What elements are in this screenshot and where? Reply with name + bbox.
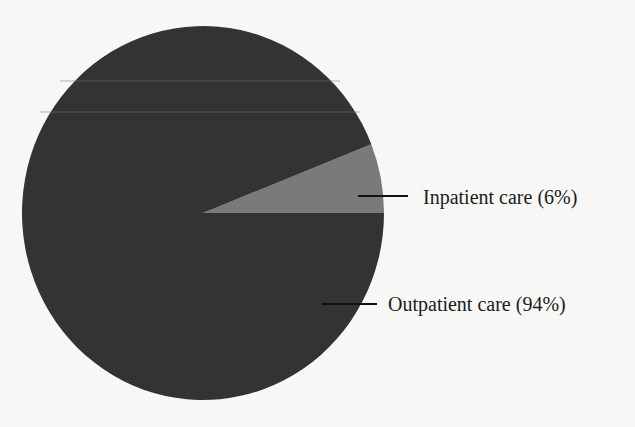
outpatient-label: Outpatient care (94%) — [388, 294, 566, 314]
pie-chart — [0, 0, 635, 427]
outpatient-leader-line — [322, 303, 377, 305]
inpatient-leader-line — [358, 195, 408, 197]
inpatient-label: Inpatient care (6%) — [423, 187, 577, 207]
